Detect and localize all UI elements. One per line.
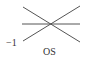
left-value-label: −1	[6, 37, 17, 48]
crossing-lines-diagram: −1 OS	[0, 0, 86, 58]
bottom-label: OS	[43, 46, 56, 57]
